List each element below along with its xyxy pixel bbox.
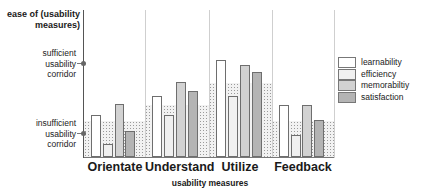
bar-utilize-memorability bbox=[240, 65, 250, 157]
x-axis-baseline bbox=[84, 157, 334, 158]
legend: learnability efficiency memorabiltiy sat… bbox=[338, 57, 409, 103]
sufficient-marker-icon bbox=[81, 61, 86, 66]
legend-swatch bbox=[338, 57, 356, 68]
label-line: sufficient bbox=[6, 48, 76, 59]
sufficient-corridor-label: sufficient usability corridor bbox=[6, 48, 76, 80]
bar-orientate-learnability bbox=[91, 115, 101, 157]
y-axis-label: ease of (usability measures) bbox=[2, 9, 80, 31]
bar-orientate-satisfaction bbox=[125, 131, 135, 157]
legend-swatch bbox=[338, 80, 356, 91]
label-line: corridor bbox=[6, 139, 76, 150]
category-label-feedback: Feedback bbox=[271, 160, 335, 174]
bar-utilize-efficiency bbox=[228, 96, 238, 157]
legend-label: learnability bbox=[361, 57, 402, 68]
bar-understand-memorability bbox=[176, 82, 186, 157]
bar-feedback-satisfaction bbox=[314, 120, 324, 157]
legend-item-memorability: memorabiltiy bbox=[338, 80, 409, 92]
label-line: usability bbox=[6, 129, 76, 140]
category-divider bbox=[209, 10, 210, 158]
label-line: corridor bbox=[6, 69, 76, 80]
legend-item-efficiency: efficiency bbox=[338, 69, 409, 81]
bar-utilize-satisfaction bbox=[252, 72, 262, 157]
category-label-understand: Understand bbox=[145, 160, 209, 174]
bar-feedback-efficiency bbox=[291, 135, 301, 157]
category-divider bbox=[272, 10, 273, 158]
legend-label: memorabiltiy bbox=[361, 80, 409, 91]
legend-swatch bbox=[338, 92, 356, 103]
category-divider bbox=[334, 10, 335, 158]
insufficient-marker-icon bbox=[81, 131, 86, 136]
bar-understand-efficiency bbox=[164, 115, 174, 157]
bar-understand-satisfaction bbox=[188, 91, 198, 157]
bar-feedback-learnability bbox=[279, 105, 289, 157]
bar-utilize-learnability bbox=[216, 60, 226, 157]
legend-label: satisfaction bbox=[361, 92, 404, 103]
x-axis-label: usability measures bbox=[160, 178, 260, 188]
legend-item-learnability: learnability bbox=[338, 57, 409, 69]
bar-orientate-memorability bbox=[115, 104, 124, 157]
insufficient-corridor-label: insufficient usability corridor bbox=[6, 118, 76, 150]
label-line: insufficient bbox=[6, 118, 76, 129]
legend-label: efficiency bbox=[361, 69, 396, 80]
legend-item-satisfaction: satisfaction bbox=[338, 92, 409, 104]
bar-orientate-efficiency bbox=[103, 144, 113, 157]
bar-feedback-memorability bbox=[302, 105, 312, 157]
category-label-utilize: Utilize bbox=[208, 160, 272, 174]
category-label-orientate: Orientate bbox=[83, 160, 147, 174]
bar-understand-learnability bbox=[152, 96, 162, 157]
label-line: usability bbox=[6, 59, 76, 70]
legend-swatch bbox=[338, 69, 356, 80]
category-divider bbox=[145, 10, 146, 158]
